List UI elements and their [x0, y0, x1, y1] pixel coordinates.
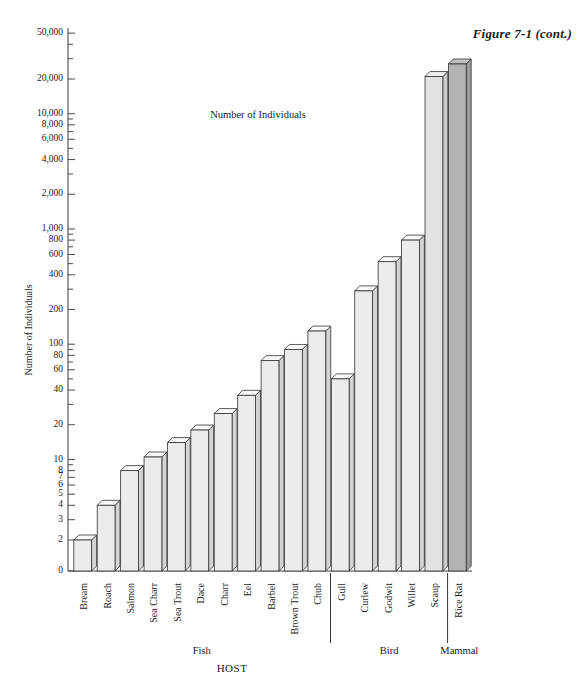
bar-side-face [185, 438, 190, 571]
x-axis-category-label: Eel [242, 583, 253, 597]
bar-godwit [378, 257, 401, 571]
y-axis-tick-label: 3 [58, 514, 63, 524]
bar-front-face [214, 414, 232, 571]
y-axis-tick-label: 6,000 [42, 133, 64, 143]
x-axis-category-label: Roach [102, 583, 113, 609]
x-axis-title: HOST [217, 662, 248, 674]
bar-dace [191, 425, 214, 571]
x-axis-category-label: Curlew [359, 582, 370, 612]
x-axis-category-label: Barbel [266, 583, 277, 610]
bar-front-face [308, 331, 326, 571]
bar-front-face [167, 443, 185, 571]
bar-front-face [74, 540, 92, 571]
bar-front-face [97, 505, 115, 571]
bar-side-face [396, 257, 401, 571]
y-axis-tick-label: 8,000 [42, 119, 64, 129]
bar-front-face [144, 457, 162, 571]
y-axis-tick-label: 4 [58, 499, 63, 509]
bar-side-face [232, 409, 237, 571]
bar-side-face [443, 72, 448, 571]
y-axis-tick-label: 4,000 [42, 154, 64, 164]
x-axis-category-label: Brown Trout [289, 583, 300, 635]
group-label-fish: Fish [193, 645, 212, 656]
bar-front-face [448, 64, 466, 571]
bar-side-face [138, 466, 143, 571]
x-axis-category-label: Chub [312, 583, 323, 605]
bar-front-face [285, 349, 303, 571]
y-axis-tick-label: 0 [58, 565, 63, 575]
x-axis-category-label: Rice Rat [453, 583, 464, 618]
bar-roach [97, 500, 120, 571]
bar-side-face [92, 535, 97, 571]
y-axis-tick-label: 800 [49, 234, 64, 244]
bar-gull [331, 374, 354, 571]
bar-side-face [279, 356, 284, 571]
y-axis-tick-label: 2 [58, 534, 63, 544]
x-axis-category-label: Gull [336, 583, 347, 601]
y-axis-tick-label: 20 [54, 419, 64, 429]
y-axis-tick-label: 20,000 [37, 73, 63, 83]
bar-scaup [425, 72, 448, 571]
bar-side-face [162, 452, 167, 571]
bar-side-face [302, 344, 307, 571]
bar-front-face [425, 77, 443, 571]
y-axis-tick-label: 600 [49, 249, 64, 259]
bar-bream [74, 535, 97, 571]
bar-rice-rat [448, 59, 471, 571]
x-axis-category-label: Sea Charr [148, 582, 159, 622]
bar-side-face [349, 374, 354, 571]
x-axis-category-label: Charr [219, 582, 230, 605]
bar-eel [238, 390, 261, 571]
bar-front-face [355, 291, 373, 571]
y-axis-tick-label: 60 [54, 364, 64, 374]
x-axis-category-label: Sea Trout [172, 583, 183, 622]
y-axis-tick-label: 10 [54, 454, 64, 464]
x-axis-category-label: Salmon [125, 583, 136, 614]
bar-side-face [255, 390, 260, 571]
bar-front-face [261, 361, 279, 571]
x-axis-category-label: Bream [78, 583, 89, 610]
bar-salmon [121, 466, 144, 571]
bar-front-face [121, 471, 139, 571]
y-axis-tick-label: 40 [54, 384, 64, 394]
bar-front-face [191, 430, 209, 571]
y-axis-tick-label: 200 [49, 304, 64, 314]
bar-charr [214, 409, 237, 571]
bar-front-face [402, 240, 420, 571]
x-axis-category-label: Scaup [429, 583, 440, 607]
bar-side-face [373, 286, 378, 571]
x-axis-category-label: Willet [406, 583, 417, 608]
y-axis-tick-label: 400 [49, 269, 64, 279]
bar-front-face [331, 379, 349, 571]
bar-chub [308, 326, 331, 571]
y-axis-tick-label: 8 [58, 465, 63, 475]
y-axis-tick-label: 1,000 [42, 223, 64, 233]
bar-chart: 0234567810204060801002004006008001,0002,… [0, 0, 582, 685]
x-axis-category-label: Godwit [383, 583, 394, 613]
bar-front-face [378, 262, 396, 571]
bar-curlew [355, 286, 378, 571]
bar-side-face [419, 235, 424, 571]
bar-sea-trout [167, 438, 190, 571]
y-axis-tick-label: 10,000 [37, 108, 63, 118]
y-axis-tick-label: 5 [58, 488, 63, 498]
group-label-bird: Bird [380, 645, 399, 656]
y-axis-tick-label: 50,000 [37, 27, 63, 37]
bar-side-face [466, 59, 471, 571]
bar-front-face [238, 395, 256, 571]
y-axis-tick-label: 100 [49, 338, 64, 348]
bar-side-face [209, 425, 214, 571]
bar-side-face [115, 500, 120, 571]
y-axis-tick-label: 80 [54, 350, 64, 360]
bar-barbel [261, 356, 284, 571]
bar-willet [402, 235, 425, 571]
bar-sea-charr [144, 452, 167, 571]
x-axis-category-label: Dace [195, 582, 206, 603]
group-label-mammal: Mammal [440, 645, 478, 656]
y-axis-tick-label: 2,000 [42, 188, 64, 198]
bar-side-face [326, 326, 331, 571]
chart-annotation: Number of Individuals [210, 109, 306, 120]
bar-brown-trout [285, 344, 308, 571]
y-axis-title: Number of Individuals [23, 284, 34, 375]
